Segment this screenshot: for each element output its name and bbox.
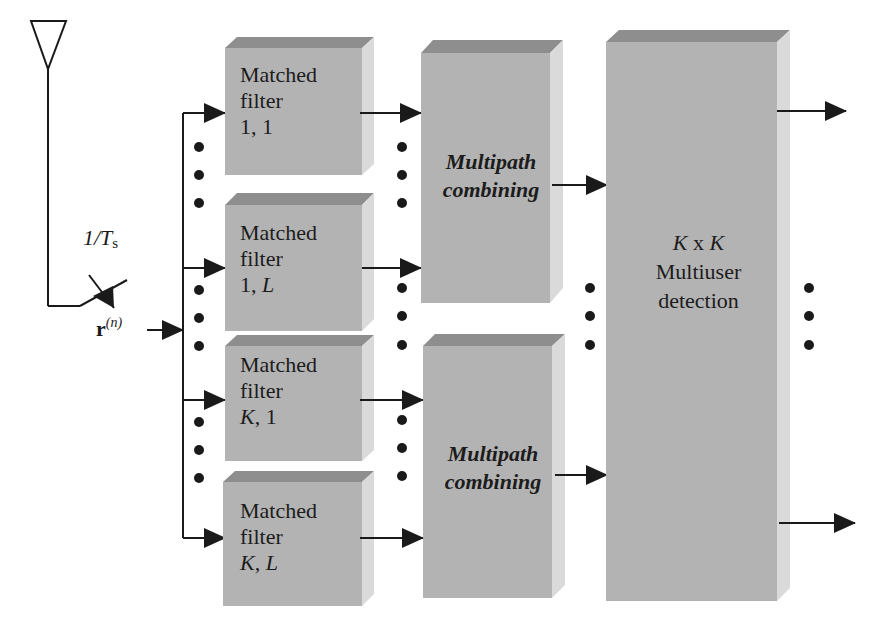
vertical-dots-icon bbox=[585, 283, 595, 350]
antenna-icon bbox=[31, 21, 80, 306]
matched-filter-label-1-L: Matched filter 1, L bbox=[240, 220, 317, 298]
sampler-switch-icon bbox=[80, 275, 127, 308]
sampling-rate-label: 1/Ts bbox=[83, 225, 118, 252]
multiuser-detection-box bbox=[606, 30, 790, 601]
multipath-combining-label-2: Multipath combining bbox=[423, 440, 563, 496]
vertical-dots-icon bbox=[397, 142, 407, 481]
vertical-dots-icon bbox=[194, 142, 204, 483]
matched-filter-label-K-1: Matched filter K, 1 bbox=[240, 352, 317, 430]
vertical-dots-icon bbox=[804, 283, 814, 350]
received-signal-label: r(n) bbox=[96, 315, 122, 342]
multiuser-detection-label: K x K Multiuser detection bbox=[606, 228, 791, 315]
diagram-canvas bbox=[0, 0, 885, 640]
matched-filter-label-1-1: Matched filter 1, 1 bbox=[240, 62, 317, 140]
matched-filter-label-K-L: Matched filter K, L bbox=[240, 498, 317, 576]
distribution-bus bbox=[183, 113, 225, 538]
multipath-combining-label-1: Multipath combining bbox=[421, 148, 561, 204]
